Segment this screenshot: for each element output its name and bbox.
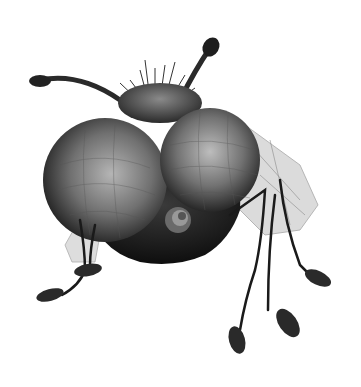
eye-left: [43, 118, 167, 242]
antenna-left: [29, 75, 120, 100]
eye-right: [160, 108, 260, 212]
feet: [35, 262, 334, 356]
fly-drawing: [0, 0, 361, 387]
fly-illustration: [0, 0, 361, 387]
proboscis-spiral: [165, 207, 191, 233]
